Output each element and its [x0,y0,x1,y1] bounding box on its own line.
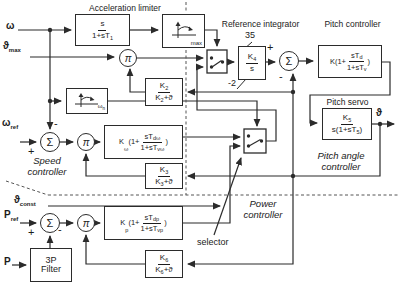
integrator-upper-limit: 35 [245,30,255,40]
label-speed-controller: Speed controller [16,155,78,178]
pitch-controller-block: K(1+ sTd 1+sTv ) [318,45,382,78]
selector-switch-controller [244,129,266,153]
power-controller-block: Kp(1+ sTdp 1+sTvp ) [104,206,183,240]
pc-den-sub: v [364,67,367,73]
input-theta-const-label: ϑconst [14,194,36,207]
gain-schedule-k6-block: K6 K6+ϑ [145,250,183,278]
pitch-control-block-diagram: Acceleration limiter Reference integrato… [0,0,400,293]
selector-switch-reference [207,50,227,73]
sum-junction-reference: Σ [279,51,299,71]
minus-sign-reference-sum: - [279,71,283,82]
omega-threshold-icon [73,92,101,110]
pw-post: ) [164,219,167,227]
title-pitch-servo: Pitch servo [320,97,375,107]
input-p-ref-label: Pref [4,209,18,222]
input-omega-label: ω [6,20,14,31]
omega-n-sub: n [102,107,105,112]
pitch-servo-block: K5 s(1+sT5) [322,108,372,140]
speed-controller-block: Kω(1+ sTdω 1+sTvω ) [104,125,183,159]
pc-num: sT [351,52,359,60]
3p-filter-line2: Filter [41,265,61,274]
sum-junction-power: Σ [40,213,60,233]
sc-den-sub: vω [157,147,164,153]
pw-pre-sub: p [125,228,128,234]
pi-symbol: π [83,218,90,229]
pw-den: 1+sT [140,225,157,233]
integrator-lower-limit: -2 [228,78,236,88]
omega-ref-sub: ref [10,124,18,130]
sum-junction-speed: Σ [40,132,60,152]
omega-threshold-block: ωn [66,88,108,114]
pc-num-sub: d [359,55,362,61]
sc-num-sub: dω [153,136,160,142]
pi-symbol: π [125,53,132,64]
pi-symbol: π [83,137,90,148]
multiplier-theta-max: π [119,49,137,67]
speed-label-l2: controller [27,166,66,177]
p-in-text: P [4,256,11,267]
omega-text: ω [6,20,14,31]
integrator-den: s [250,65,254,73]
speed-label-l1: Speed [33,155,60,166]
power-label-l2: controller [243,209,282,220]
input-theta-max-label: ϑmax [3,40,21,53]
servo-den: s(1+sT [332,126,357,134]
3p-filter-block: 3P Filter [30,248,72,282]
multiplier-power: π [77,214,95,232]
omega-threshold-label: ωn [98,103,105,112]
k6-num-sub: 6 [165,258,168,264]
rate-limiter-icon [169,20,199,42]
washout-den-sub: 1 [110,36,113,42]
k2-den-post: +ϑ [164,94,173,102]
p-ref-sub: ref [11,216,19,222]
pc-pre: K(1+ [330,58,346,66]
sc-post: ) [165,138,168,146]
label-selector: selector [197,237,229,247]
title-reference-integrator: Reference integrator [213,19,308,29]
minus-sign-speed-sum: - [54,118,58,129]
integrator-num-sub: 4 [253,57,256,63]
rate-limiter-max-label: max [191,40,202,46]
servo-num-sub: 5 [348,118,351,124]
pitch-angle-label-l1: Pitch angle [317,150,364,161]
pc-post: ) [368,58,371,66]
gain-schedule-k3-block: K3 K3+ϑ [145,163,183,189]
sum-symbol: Σ [47,136,54,148]
theta-max-sub: max [9,47,21,53]
label-pitch-angle-controller: Pitch angle controller [305,150,377,173]
sum-symbol: Σ [286,55,293,67]
pw-num-sub: dp [153,217,159,223]
servo-den-sub: 5 [356,130,359,136]
servo-den-post: ) [360,126,363,134]
pw-den-sub: vp [157,228,163,234]
k6-den-post: +ϑ [164,266,173,274]
label-power-controller: Power controller [232,198,294,221]
k3-num-sub: 3 [165,170,168,176]
multiplier-speed: π [77,133,95,151]
plus-sign-power-sum: + [28,227,34,238]
sc-den: 1+sT [140,144,157,152]
title-pitch-controller: Pitch controller [315,19,390,29]
sc-num: sT [145,133,153,141]
input-p-label: P [4,256,11,267]
sc-pre-sub: ω [124,147,128,153]
pc-den: 1+sT [347,64,364,72]
plus-sign-reference-sum: + [267,42,273,53]
k6-den-sub: 6 [161,270,164,276]
gain-schedule-k2-block: K2 K2+ϑ [145,78,183,106]
k3-den-post: +ϑ [164,178,173,186]
p-ref-main: P [4,209,11,220]
reference-integrator-block: K4 s [238,46,266,80]
power-label-l1: Power [250,198,277,209]
theta-out-text: ϑ [376,107,382,118]
title-acceleration-limiter: Acceleration limiter [70,3,180,13]
k2-num-sub: 2 [165,86,168,92]
washout-num: s [100,20,104,28]
pw-num: sT [145,214,153,222]
sc-pre: K [119,138,124,146]
input-omega-ref-label: ωref [2,117,18,130]
washout-den: 1+sT [92,32,110,40]
washout-filter-block: s 1+sT1 [75,14,130,46]
sum-symbol: Σ [47,217,54,229]
rate-limiter-block: max [162,14,205,48]
